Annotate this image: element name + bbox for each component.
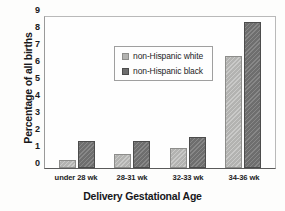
x-axis-tick-label: 28-31 wk: [104, 173, 160, 182]
x-axis-tick-label: 34-36 wk: [216, 173, 272, 182]
bar: [114, 154, 131, 168]
y-axis-tick-5: 5: [26, 73, 40, 83]
legend-swatch-icon-white: [122, 53, 129, 60]
x-axis-tick-labels: under 28 wk28-31 wk32-33 wk34-36 wk: [44, 173, 276, 182]
bar: [189, 137, 206, 168]
legend-label-white: non-Hispanic white: [133, 51, 203, 61]
bar-group: [105, 17, 161, 168]
x-axis-tick-label: under 28 wk: [48, 173, 104, 182]
bar: [133, 141, 150, 168]
y-axis-tick-2: 2: [26, 124, 40, 134]
bar: [244, 22, 261, 168]
x-axis-title: Delivery Gestational Age: [0, 190, 285, 202]
bar: [225, 56, 242, 168]
y-axis-tick-4: 4: [26, 90, 40, 100]
y-axis-tick-0: 0: [26, 158, 40, 168]
bar-chart-figure: Percentage of all births 0123456789 non-…: [0, 0, 285, 211]
y-axis-tick-1: 1: [26, 141, 40, 151]
legend-item-non-hispanic-black: non-Hispanic black: [122, 66, 203, 76]
y-axis-tick-7: 7: [26, 39, 40, 49]
legend-label-black: non-Hispanic black: [133, 66, 203, 76]
y-axis-tick-3: 3: [26, 107, 40, 117]
bar: [78, 141, 95, 168]
bar-group: [49, 17, 105, 168]
legend-swatch-icon-black: [122, 68, 129, 75]
bar-groups: [45, 17, 275, 168]
legend: non-Hispanic white non-Hispanic black: [114, 46, 213, 81]
plot-area: non-Hispanic white non-Hispanic black: [44, 16, 276, 169]
y-axis-tick-labels: 0123456789: [26, 10, 40, 174]
y-axis-tick-8: 8: [26, 22, 40, 32]
y-axis-tick-9: 9: [26, 5, 40, 15]
bar-group: [216, 17, 272, 168]
y-axis-tick-6: 6: [26, 56, 40, 66]
bar-group: [160, 17, 216, 168]
bar: [59, 160, 76, 169]
bar: [170, 148, 187, 168]
x-axis-tick-label: 32-33 wk: [160, 173, 216, 182]
legend-item-non-hispanic-white: non-Hispanic white: [122, 51, 203, 61]
